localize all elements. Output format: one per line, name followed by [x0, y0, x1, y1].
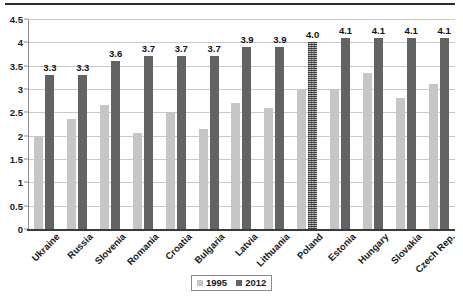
bar-value-label: 3.7	[142, 43, 155, 54]
bar-2012[interactable]	[407, 38, 416, 229]
bar-value-label: 4.1	[437, 25, 450, 36]
chart-figure: 00.511.522.533.544.5 3.33.33.63.73.73.73…	[0, 0, 463, 303]
bar-value-label: 4.1	[372, 25, 385, 36]
bar-2012[interactable]	[374, 38, 383, 229]
y-axis-tick-label: 4.5	[10, 14, 23, 25]
y-axis-tick-label: 1.5	[10, 154, 23, 165]
bar-1995[interactable]	[264, 108, 273, 229]
x-axis-label: Croatia	[163, 231, 194, 262]
bar-value-label: 3.6	[109, 48, 122, 59]
legend-item-1995: 1995	[197, 277, 227, 288]
bar-1995[interactable]	[166, 112, 175, 229]
plot-area: 00.511.522.533.544.5 3.33.33.63.73.73.73…	[28, 19, 455, 229]
bar-value-label: 3.7	[208, 43, 221, 54]
legend-swatch-1995-icon	[197, 280, 203, 286]
x-axis-label: Slovenia	[92, 231, 127, 266]
bar-value-label: 3.7	[175, 43, 188, 54]
bar-value-label: 3.9	[273, 34, 286, 45]
x-axis-label: Romania	[125, 231, 161, 267]
y-axis-tick-label: 2	[18, 130, 23, 141]
bar-group: 4.1	[356, 19, 389, 229]
bar-value-label: 4.1	[405, 25, 418, 36]
bar-group: 3.7	[127, 19, 160, 229]
legend-item-2012: 2012	[236, 277, 266, 288]
bar-1995[interactable]	[429, 84, 438, 229]
bar-1995[interactable]	[297, 89, 306, 229]
bar-group: 4.1	[422, 19, 455, 229]
page-frame-rule	[5, 3, 455, 5]
bar-1995[interactable]	[199, 129, 208, 229]
y-axis-tick-label: 4	[18, 37, 23, 48]
bar-value-label: 3.3	[43, 62, 56, 73]
bar-group: 4.0	[291, 19, 324, 229]
bar-value-label: 4.1	[339, 25, 352, 36]
bar-2012[interactable]	[78, 75, 87, 229]
bar-value-label: 4.0	[306, 29, 319, 40]
y-axis-tick-label: 1	[18, 177, 23, 188]
bar-1995[interactable]	[67, 119, 76, 229]
y-axis-tick-label: 0.5	[10, 200, 23, 211]
bar-group: 3.3	[61, 19, 94, 229]
y-axis-tick-label: 3.5	[10, 60, 23, 71]
bar-2012[interactable]	[341, 38, 350, 229]
bar-1995[interactable]	[330, 89, 339, 229]
bar-group: 3.7	[159, 19, 192, 229]
bar-1995[interactable]	[34, 136, 43, 229]
bar-group: 3.3	[28, 19, 61, 229]
bar-1995[interactable]	[363, 73, 372, 229]
x-axis-label: Ukraine	[30, 231, 62, 263]
bar-1995[interactable]	[231, 103, 240, 229]
y-axis-tick-label: 0	[18, 224, 23, 235]
x-axis-label: Russia	[65, 231, 95, 261]
bar-2012[interactable]	[440, 38, 449, 229]
bar-1995[interactable]	[100, 105, 109, 229]
bar-2012[interactable]	[308, 42, 317, 229]
bar-1995[interactable]	[396, 98, 405, 229]
chart-legend: 1995 2012	[191, 275, 272, 291]
y-axis-tick-label: 3	[18, 84, 23, 95]
x-axis-label: Lithuania	[254, 231, 292, 269]
bar-group: 4.1	[324, 19, 357, 229]
x-axis-label: Poland	[295, 231, 325, 261]
bar-2012[interactable]	[210, 56, 219, 229]
x-axis-label: Bulgaria	[192, 231, 227, 266]
x-axis-label: Estonia	[326, 231, 358, 263]
bar-group: 3.7	[192, 19, 225, 229]
x-axis-label: Latvia	[232, 231, 259, 258]
bar-groups: 3.33.33.63.73.73.73.93.94.04.14.14.14.1	[28, 19, 455, 229]
bar-2012[interactable]	[111, 61, 120, 229]
bar-group: 3.6	[94, 19, 127, 229]
bar-group: 3.9	[258, 19, 291, 229]
bar-2012[interactable]	[45, 75, 54, 229]
bar-2012[interactable]	[275, 47, 284, 229]
bar-value-label: 3.9	[240, 34, 253, 45]
legend-label-2012: 2012	[245, 277, 266, 288]
bar-group: 4.1	[389, 19, 422, 229]
bar-2012[interactable]	[242, 47, 251, 229]
bar-2012[interactable]	[144, 56, 153, 229]
y-axis-tick-label: 2.5	[10, 107, 23, 118]
legend-swatch-2012-icon	[236, 280, 242, 286]
bar-group: 3.9	[225, 19, 258, 229]
bar-2012[interactable]	[177, 56, 186, 229]
x-axis-label: Hungary	[356, 231, 391, 266]
bar-1995[interactable]	[133, 133, 142, 229]
legend-label-1995: 1995	[206, 277, 227, 288]
bar-value-label: 3.3	[76, 62, 89, 73]
